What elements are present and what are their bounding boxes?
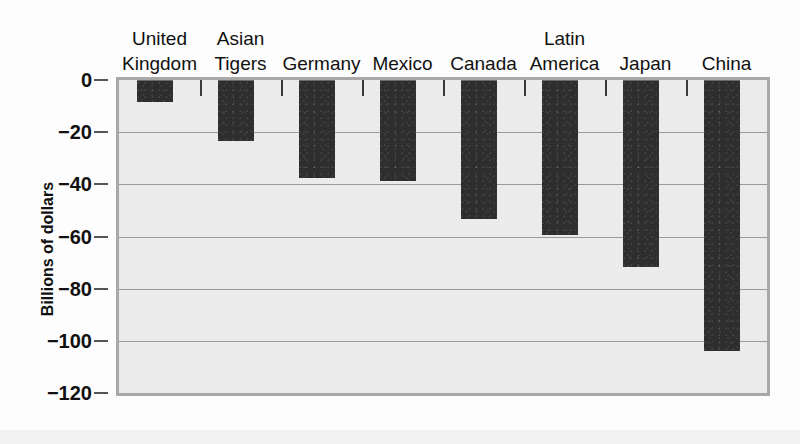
bar [299,80,335,178]
bar-chart-figure: Billions of dollars 0−20−40−60−80−100−12… [0,0,800,444]
y-axis-tick-label: −60 [30,225,92,248]
x-axis-category-tick [200,80,202,96]
y-axis-tick-label: −20 [30,121,92,144]
category-label-line2: America [524,51,605,76]
category-label-line2: Japan [605,51,686,76]
x-axis-category-label: China [686,26,767,76]
x-axis-category-tick [281,80,283,96]
x-axis-category-label: Japan [605,26,686,76]
y-axis-tick-mark [94,79,108,81]
category-label-line1: Latin [524,26,605,51]
category-label-line1: Asian [200,26,281,51]
x-axis-category-label: Canada [443,26,524,76]
gridline [119,341,767,342]
y-axis-tick-mark [94,340,108,342]
y-axis-tick-mark [94,183,108,185]
x-axis-category-labels: UnitedKingdomAsianTigers Germany Mexico … [116,18,770,76]
bar [623,80,659,267]
x-axis-category-tick [686,80,688,96]
y-axis-tick-labels: 0−20−40−60−80−100−120 [28,0,92,444]
category-label-line1 [281,26,362,51]
y-axis-tick-label: −120 [30,382,92,405]
category-label-line2: Germany [281,51,362,76]
y-axis-tick-mark [94,392,108,394]
category-label-line2: Mexico [362,51,443,76]
category-label-line2: Canada [443,51,524,76]
category-label-line1: United [119,26,200,51]
gridline [119,237,767,238]
gridline [119,289,767,290]
x-axis-category-label: AsianTigers [200,26,281,76]
y-axis-tick-label: −40 [30,173,92,196]
plot-inner [119,80,767,393]
x-axis-category-label: Germany [281,26,362,76]
category-label-line2: China [686,51,767,76]
x-axis-category-tick [605,80,607,96]
category-label-line2: Tigers [200,51,281,76]
bar [461,80,497,219]
category-label-line1 [605,26,686,51]
y-axis-tick-mark [94,236,108,238]
x-axis-category-tick [362,80,364,96]
x-axis-category-label: LatinAmerica [524,26,605,76]
y-axis-tick-label: −100 [30,329,92,352]
bar [218,80,254,141]
bar [542,80,578,235]
page-bottom-band [0,430,800,444]
plot-area [116,77,770,396]
bar [380,80,416,181]
category-label-line1 [362,26,443,51]
y-axis-tick-label: −80 [30,277,92,300]
y-axis-tick-mark [94,288,108,290]
bar [704,80,740,351]
gridline [119,184,767,185]
x-axis-category-tick [524,80,526,96]
y-axis-tick-label: 0 [30,69,92,92]
category-label-line1 [443,26,524,51]
x-axis-category-label: UnitedKingdom [119,26,200,76]
x-axis-category-label: Mexico [362,26,443,76]
gridline [119,132,767,133]
x-axis-category-tick [443,80,445,96]
bar [137,80,173,102]
category-label-line2: Kingdom [119,51,200,76]
y-axis-tick-mark [94,131,108,133]
category-label-line1 [686,26,767,51]
